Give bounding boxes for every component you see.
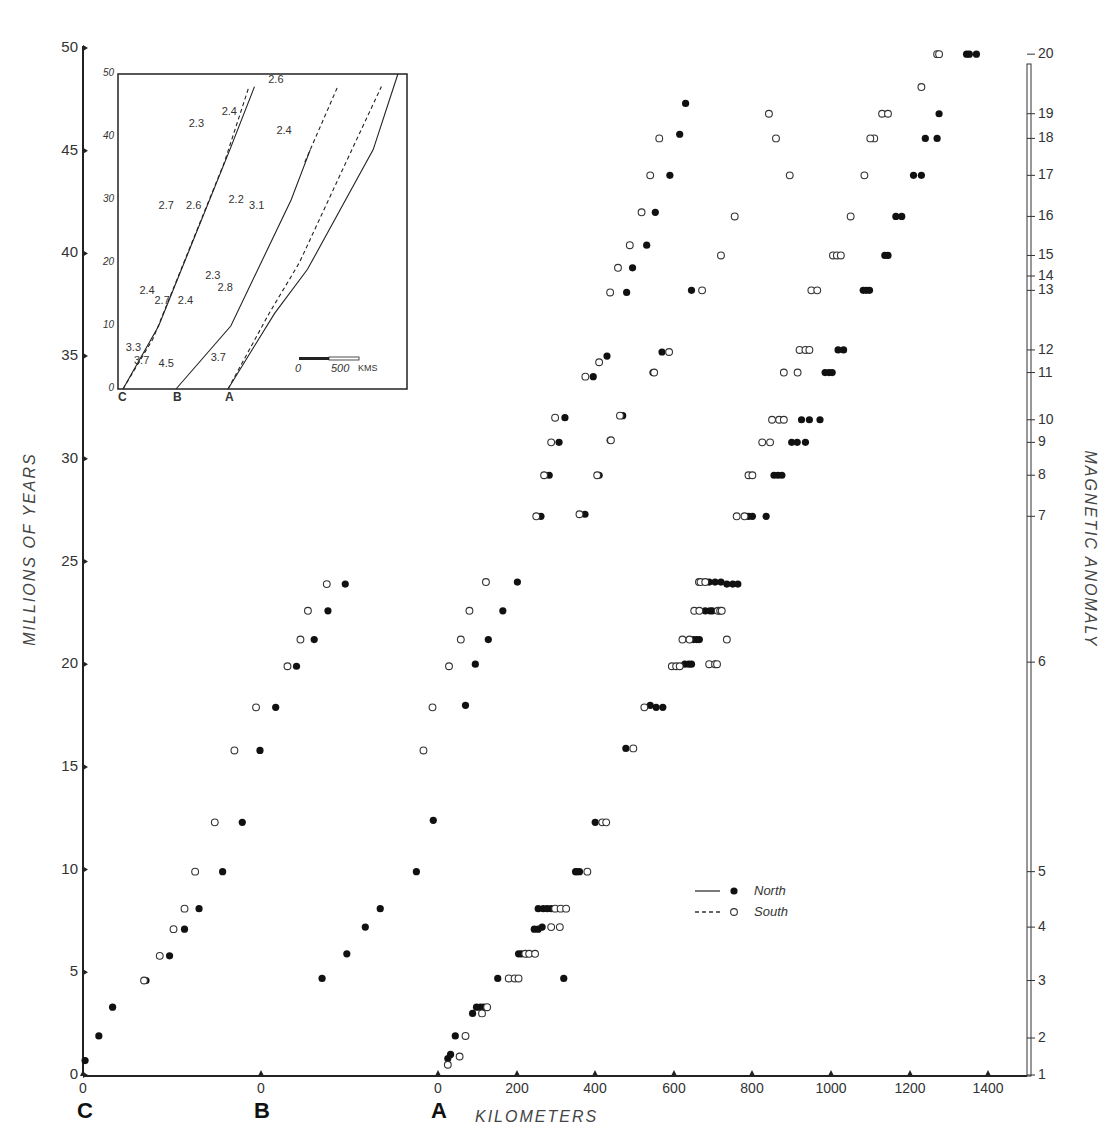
x-tick-label: 1200 [885,1080,935,1096]
magnetic-anomaly-label: 12 [1038,341,1054,357]
magnetic-anomaly-bar [1027,64,1031,1076]
magnetic-anomaly-label: 4 [1038,918,1046,934]
magnetic-anomaly-label: 3 [1038,972,1046,988]
inset-rate-label: 2.6 [268,73,283,85]
x-tick-label: 1000 [806,1080,856,1096]
y-tick-label: 15 [38,757,78,774]
inset-rate-label: 3.7 [134,354,149,366]
x-tick-label: 1400 [963,1080,1013,1096]
inset-y-tick-label: 30 [100,193,114,204]
inset-rate-label: 3.1 [249,199,264,211]
profile-label-b: B [254,1098,270,1124]
inset-scale-start: 0 [295,362,301,374]
inset-rate-label: 3.3 [126,341,141,353]
magnetic-anomaly-label: 14 [1038,267,1054,283]
inset-rate-label: 2.3 [205,269,220,281]
x-axis-title: KILOMETERS [475,1108,598,1126]
magnetic-anomaly-label: 6 [1038,653,1046,669]
inset-y-tick-label: 0 [100,382,114,393]
legend-north-label: North [754,883,786,898]
inset-rate-label: 3.7 [211,351,226,363]
inset-origin-a: A [225,390,234,404]
y-axis-title: MILLIONS OF YEARS [21,449,39,649]
inset-origin-b: B [173,390,182,404]
x-tick-label: 0 [58,1080,108,1096]
magnetic-anomaly-label: 2 [1038,1029,1046,1045]
y-tick-label: 25 [38,552,78,569]
inset-rate-label: 2.4 [276,124,291,136]
legend [695,887,738,915]
inset-y-tick-label: 10 [100,319,114,330]
legend-south-label: South [754,904,788,919]
x-tick-label: 600 [649,1080,699,1096]
y-tick-label: 5 [38,962,78,979]
magnetic-anomaly-label: 18 [1038,129,1054,145]
magnetic-anomaly-label: 1 [1038,1066,1046,1082]
inset-rate-label: 2.4 [178,294,193,306]
inset-rate-label: 2.8 [218,281,233,293]
x-tick-label: 400 [570,1080,620,1096]
inset-rate-label: 2.3 [189,117,204,129]
y-tick-label: 30 [38,449,78,466]
y-tick-label: 50 [38,38,78,55]
seafloor-spreading-chart [0,0,1114,1141]
magnetic-anomaly-label: 11 [1038,364,1053,380]
magnetic-anomaly-label: 10 [1038,411,1054,427]
inset-y-tick-label: 50 [100,67,114,78]
magnetic-anomaly-label: 5 [1038,863,1046,879]
y-tick-label: 40 [38,243,78,260]
y2-axis-title: MAGNETIC ANOMALY [1081,449,1099,649]
legend-north-marker [730,887,737,894]
magnetic-anomaly-label: 15 [1038,246,1054,262]
y-tick-label: 35 [38,346,78,363]
inset-rate-label: 4.5 [159,357,174,369]
inset-rate-label: 2.2 [228,193,243,205]
x-tick-label: 800 [727,1080,777,1096]
inset-scale-bar [299,357,359,360]
inset-y-tick-label: 40 [100,130,114,141]
inset-frame [118,74,407,389]
inset-rate-label: 2.7 [159,199,174,211]
inset-rate-label: 2.6 [186,199,201,211]
inset-scale-unit: KMS [358,363,378,373]
magnetic-anomaly-label: 7 [1038,507,1046,523]
profile-label-a: A [431,1098,447,1124]
magnetic-anomaly-label: 8 [1038,466,1046,482]
inset-rate-label: 2.7 [155,294,170,306]
inset-origin-c: C [118,390,127,404]
inset-scale-end: 500 [331,362,349,374]
profile-label-c: C [77,1098,93,1124]
magnetic-anomaly-label: 16 [1038,207,1054,223]
x-tick-label: 0 [413,1080,463,1096]
y-tick-label: 45 [38,141,78,158]
inset-rate-label: 2.4 [139,284,154,296]
magnetic-anomaly-label: 20 [1038,45,1054,61]
inset-y-tick-label: 20 [100,256,114,267]
inset-rate-label: 2.4 [222,105,237,117]
x-tick-label: 200 [492,1080,542,1096]
magnetic-anomaly-label: 13 [1038,281,1054,297]
y-tick-label: 10 [38,860,78,877]
legend-south-marker [731,909,738,916]
x-tick-label: 0 [236,1080,286,1096]
y-tick-label: 20 [38,654,78,671]
magnetic-anomaly-label: 9 [1038,433,1046,449]
magnetic-anomaly-label: 17 [1038,166,1054,182]
magnetic-anomaly-label: 19 [1038,105,1054,121]
